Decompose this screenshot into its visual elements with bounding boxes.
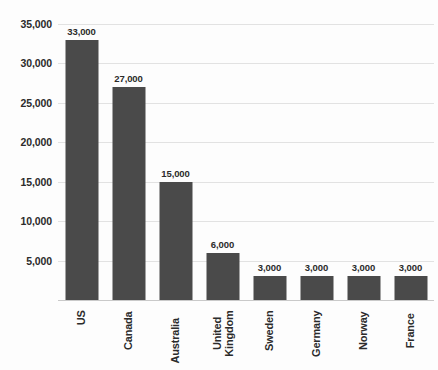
y-tick-label: 35,000 [0,18,52,30]
bar-group: 6,000United Kingdom [199,0,246,370]
x-category-label: Germany [311,306,323,362]
x-category-label: United Kingdom [211,306,234,362]
x-category-label: France [405,306,417,356]
bar-value-label: 3,000 [258,262,281,273]
y-tick-label: 10,000 [0,215,52,227]
y-axis: 5,00010,00015,00020,00025,00030,00035,00… [0,0,52,370]
y-tick-label: 15,000 [0,176,52,188]
bar[interactable] [300,276,333,300]
x-category-label: Canada [123,306,135,356]
y-tick-label: 30,000 [0,57,52,69]
bar[interactable] [253,276,286,300]
bar-value-label: 3,000 [352,262,375,273]
bar-value-label: 6,000 [211,239,234,250]
bar-value-label: 15,000 [161,168,189,179]
bar-group: 3,000France [387,0,434,370]
plot-area: 33,000US27,000Canada15,000Australia6,000… [58,0,434,370]
y-tick-label: 20,000 [0,136,52,148]
bar-value-label: 3,000 [305,262,328,273]
bar-group: 3,000Sweden [246,0,293,370]
bar-chart: 5,00010,00015,00020,00025,00030,00035,00… [0,0,438,370]
x-category-label: Norway [358,306,370,356]
bar-value-label: 33,000 [67,26,95,37]
bar-group: 3,000Germany [293,0,340,370]
bar[interactable] [206,253,239,300]
y-tick-label: 25,000 [0,97,52,109]
bar[interactable] [65,40,98,300]
y-tick-label: 5,000 [0,255,52,267]
x-category-label: Sweden [264,306,276,356]
bar[interactable] [112,87,145,300]
bar-value-label: 3,000 [399,262,422,273]
bar-group: 3,000Norway [340,0,387,370]
bar-group: 33,000US [58,0,105,370]
bar-group: 27,000Canada [105,0,152,370]
bar-value-label: 27,000 [114,73,142,84]
x-category-label: US [76,306,88,329]
bar[interactable] [159,182,192,300]
bar-group: 15,000Australia [152,0,199,370]
bar[interactable] [394,276,427,300]
bar[interactable] [347,276,380,300]
x-category-label: Australia [170,306,182,370]
